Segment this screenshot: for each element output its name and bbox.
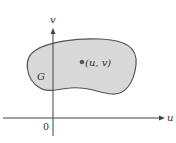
region-g	[27, 39, 136, 94]
u-axis-arrow-icon	[159, 116, 165, 121]
v-axis-arrow-icon	[51, 28, 56, 34]
origin-label: 0	[43, 121, 49, 132]
point-label: (u, v)	[85, 57, 111, 68]
v-axis-label: v	[50, 14, 56, 25]
point-marker	[80, 60, 85, 65]
u-axis-label: u	[167, 112, 173, 123]
region-label: G	[37, 71, 45, 82]
uv-plane-diagram: (u, v) G v u 0	[0, 0, 176, 143]
